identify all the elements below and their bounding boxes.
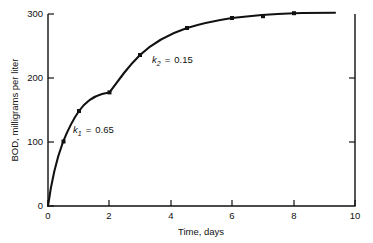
bod-curve-line (48, 13, 335, 206)
x-tick-label-2: 2 (106, 210, 111, 221)
data-point (185, 26, 189, 30)
x-tick-labels: 0 2 4 6 8 10 (45, 210, 360, 221)
axis-spines (48, 14, 355, 206)
bod-curve-figure: 0 100 200 300 0 2 4 6 8 10 Time, days BO… (0, 0, 373, 243)
y-axis-title: BOD, milligrams per liter (9, 59, 20, 162)
annotation-k1-subscript: 1 (78, 130, 82, 137)
annotation-k2-value: 0.15 (174, 54, 193, 65)
annotation-k2-equals: = (165, 54, 171, 65)
annotation-k2-subscript: 2 (156, 60, 161, 67)
x-axis-title: Time, days (178, 226, 224, 237)
annotation-k1-value: 0.65 (95, 124, 114, 135)
chart-canvas: 0 100 200 300 0 2 4 6 8 10 Time, days BO… (0, 0, 373, 243)
y-axis-ticks-right (349, 78, 355, 142)
data-point (230, 16, 234, 20)
x-tick-label-4: 4 (168, 210, 173, 221)
data-point (77, 109, 81, 113)
x-tick-label-0: 0 (45, 210, 50, 221)
svg-text:k2=0.15: k2=0.15 (152, 54, 193, 67)
y-tick-label-100: 100 (27, 136, 43, 147)
data-point (292, 11, 296, 15)
annotation-k2: k2=0.15 (152, 54, 193, 67)
x-axis-ticks (48, 200, 355, 206)
y-tick-labels: 0 100 200 300 (27, 8, 43, 211)
axes-frame (48, 14, 355, 206)
data-point (261, 14, 265, 18)
data-point (138, 53, 142, 57)
y-tick-label-200: 200 (27, 72, 43, 83)
annotation-k1: k1=0.65 (73, 124, 114, 137)
x-tick-label-8: 8 (291, 210, 296, 221)
data-point (108, 90, 112, 94)
annotation-k1-equals: = (86, 124, 92, 135)
data-point (62, 140, 66, 144)
x-tick-label-10: 10 (350, 210, 361, 221)
x-tick-label-6: 6 (229, 210, 234, 221)
y-tick-label-0: 0 (38, 200, 43, 211)
y-tick-label-300: 300 (27, 8, 43, 19)
svg-text:k1=0.65: k1=0.65 (73, 124, 114, 137)
